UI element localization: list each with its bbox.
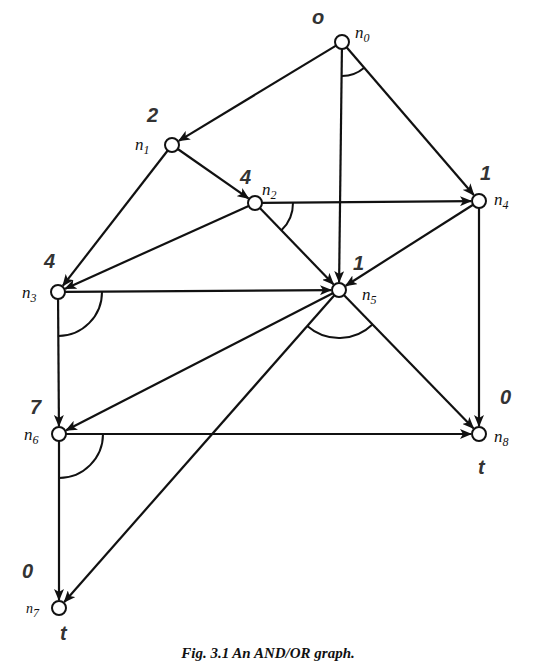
node-n6 (52, 427, 66, 441)
node-label-n8: n8 (494, 427, 509, 449)
node-label-n5: n5 (362, 285, 377, 307)
node-label-n2: n2 (262, 180, 277, 202)
value-n0: o (312, 6, 324, 28)
node-n4 (472, 194, 486, 208)
nodes (51, 35, 486, 615)
edge-n0-n5 (339, 49, 342, 282)
value-n1: 2 (146, 104, 158, 126)
value-n5: 1 (353, 252, 364, 274)
and-arc-n6 (59, 434, 103, 478)
node-n2 (248, 196, 262, 210)
node-n5 (332, 283, 346, 297)
node-n1 (165, 138, 179, 152)
terminal-n8: t (478, 456, 486, 478)
and-arc-n5 (307, 324, 372, 338)
and-arc-n0 (342, 68, 365, 76)
node-label-n7: n7 (26, 601, 40, 620)
node-label-n4: n4 (494, 190, 509, 212)
node-label-n3: n3 (22, 283, 37, 305)
edge-n0-n1 (179, 46, 336, 141)
terminal-n7: t (60, 622, 68, 644)
node-label-n6: n6 (24, 425, 39, 447)
edge-n0-n4 (347, 47, 474, 195)
edge-n1-n2 (178, 149, 249, 198)
edge-n2-n5 (260, 208, 334, 284)
node-label-n1: n1 (135, 135, 150, 157)
and-arc-n2 (281, 203, 293, 231)
value-n2: 4 (239, 166, 251, 188)
value-n8: 0 (500, 386, 511, 408)
edge-n5-n7 (64, 295, 334, 602)
and-arcs (58, 68, 372, 478)
edges (58, 46, 479, 602)
value-n4: 1 (480, 162, 491, 184)
node-n0 (335, 35, 349, 49)
value-n6: 7 (30, 396, 42, 418)
edge-n3-n5 (65, 290, 331, 292)
node-n3 (51, 285, 65, 299)
and-arc-n3 (58, 292, 102, 336)
figure-caption: Fig. 3.1 An AND/OR graph. (0, 645, 536, 662)
value-n7: 0 (22, 560, 33, 582)
node-n8 (472, 427, 486, 441)
edge-n5-n8 (344, 295, 474, 428)
value-n3: 4 (43, 250, 55, 272)
edge-n4-n5 (346, 205, 473, 286)
edge-n5-n6 (66, 293, 333, 430)
and-or-graph: n0 n1 n2 n3 n4 n5 n6 n7 n8 o 2 4 4 1 1 7… (0, 0, 536, 669)
node-n7 (52, 601, 66, 615)
node-label-n0: n0 (355, 23, 370, 45)
edge-n3-n6 (58, 299, 59, 426)
